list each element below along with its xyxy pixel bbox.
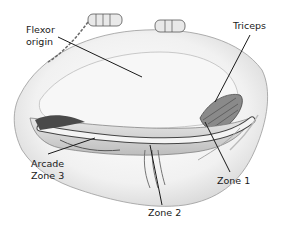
label-zone1: Zone 1 <box>217 175 250 186</box>
label-triceps: Triceps <box>233 20 266 31</box>
label-arcade: Arcade <box>31 158 64 169</box>
retractor-left <box>88 14 122 26</box>
label-zone3: Zone 3 <box>31 170 64 181</box>
label-flexor-origin-line2: origin <box>26 36 53 47</box>
label-zone2: Zone 2 <box>148 207 181 218</box>
illustration: Flexor origin Triceps Arcade Zone 3 Zone… <box>0 0 284 230</box>
label-flexor-origin-line1: Flexor <box>26 24 55 35</box>
retractor-right <box>155 20 185 32</box>
